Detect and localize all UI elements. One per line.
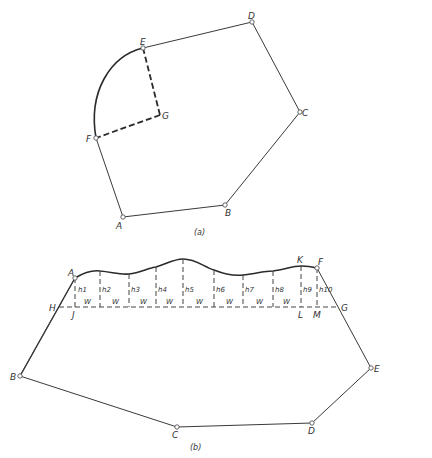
svg-text:W: W: [140, 298, 148, 306]
offset-labels: h1 h2 h3 h4 h5 h6 h7 h8 h9 h10: [78, 286, 333, 294]
arc-ef: [94, 48, 143, 138]
interval-labels: W W W W W W W W: [84, 298, 291, 306]
svg-text:h10: h10: [319, 286, 333, 294]
label-g: G: [162, 111, 169, 121]
diagram-canvas: A B C D E F G (a) h1 h2 h3 h: [0, 0, 432, 458]
label-l: L: [298, 310, 303, 320]
svg-text:h6: h6: [216, 286, 225, 294]
label-m: M: [313, 310, 321, 320]
label-c: C: [302, 108, 309, 118]
label-d: D: [308, 426, 315, 436]
label-d: D: [248, 11, 255, 21]
label-b: B: [10, 372, 16, 382]
traverse-a-lines: [96, 22, 300, 217]
label-f: F: [318, 257, 324, 267]
label-a: A: [67, 268, 74, 278]
label-j: J: [70, 310, 75, 320]
irregular-boundary: [75, 259, 317, 278]
svg-text:h3: h3: [131, 286, 140, 294]
svg-text:W: W: [256, 298, 264, 306]
svg-text:W: W: [196, 298, 204, 306]
figure-b: h1 h2 h3 h4 h5 h6 h7 h8 h9 h10 W W W W W…: [10, 255, 380, 452]
svg-text:h9: h9: [303, 286, 312, 294]
label-f: F: [86, 134, 92, 144]
label-e: E: [374, 364, 380, 374]
station-b-icon: [18, 374, 22, 378]
svg-text:h4: h4: [158, 286, 167, 294]
svg-text:W: W: [112, 298, 120, 306]
station-e-icon: [369, 366, 373, 370]
figure-a: A B C D E F G (a): [86, 11, 309, 237]
svg-text:h7: h7: [245, 286, 254, 294]
radius-gf: [96, 115, 160, 138]
station-b-icon: [223, 203, 227, 207]
svg-text:W: W: [226, 298, 234, 306]
label-b: B: [225, 208, 231, 218]
radius-ge: [143, 48, 160, 115]
line-ab: [20, 278, 75, 376]
svg-text:h1: h1: [78, 286, 87, 294]
label-g: G: [341, 303, 348, 313]
label-c: C: [172, 430, 179, 440]
label-e: E: [140, 37, 146, 47]
svg-text:h8: h8: [275, 286, 284, 294]
svg-text:W: W: [84, 298, 92, 306]
caption-b: (b): [190, 443, 201, 452]
caption-a: (a): [194, 228, 205, 237]
svg-text:W: W: [283, 298, 291, 306]
station-d-icon: [310, 421, 314, 425]
label-a: A: [115, 221, 122, 231]
station-a-icon: [121, 215, 125, 219]
label-k: K: [297, 255, 304, 265]
svg-text:h5: h5: [185, 286, 194, 294]
label-h: H: [49, 303, 56, 313]
svg-text:h2: h2: [102, 286, 111, 294]
station-f-icon: [94, 136, 98, 140]
station-c-icon: [175, 425, 179, 429]
svg-text:W: W: [166, 298, 174, 306]
